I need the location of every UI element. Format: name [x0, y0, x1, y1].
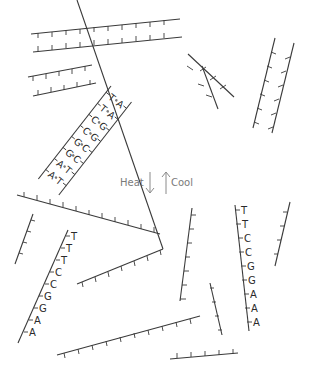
cool-label: Cool — [171, 177, 193, 188]
svg-text:C: C — [55, 267, 62, 278]
arrow-up-icon — [162, 172, 170, 194]
single-strand-small-right — [274, 202, 290, 266]
svg-text:A: A — [253, 317, 260, 328]
svg-text:T: T — [240, 205, 248, 216]
svg-text:A: A — [29, 327, 36, 338]
svg-text:G: G — [44, 291, 52, 302]
svg-text:A: A — [251, 303, 258, 314]
svg-text:T: T — [60, 255, 68, 266]
svg-text:G: G — [247, 261, 255, 272]
double-strand-fragment-small — [187, 54, 234, 109]
double-helix-labeled: T A T A C G C G G C — [38, 86, 131, 195]
svg-text:A: A — [34, 315, 41, 326]
svg-text:T: T — [70, 231, 78, 242]
svg-text:T: T — [241, 219, 249, 230]
svg-text:A: A — [250, 289, 257, 300]
single-strand-small-left — [15, 214, 35, 264]
svg-text:C: C — [244, 233, 251, 244]
svg-text:G: G — [248, 275, 256, 286]
svg-text:T: T — [65, 243, 73, 254]
single-strand-center-vertical — [180, 208, 196, 301]
svg-text:C: C — [245, 247, 252, 258]
double-strand-fragment-left — [28, 65, 96, 96]
arrow-down-icon — [146, 172, 154, 193]
single-strand-long — [17, 192, 160, 234]
single-strand-labeled-left: T T T C C G G A A — [18, 230, 78, 343]
single-strand-bottom — [57, 316, 200, 358]
heat-cool-indicator: Heat Cool — [120, 172, 193, 194]
svg-text:C: C — [50, 279, 57, 290]
single-strand-small-bottom — [170, 349, 238, 359]
dna-diagram: T A T A C G C G G C — [0, 0, 312, 378]
svg-text:G: G — [39, 303, 47, 314]
double-strand-fragment-right — [253, 38, 294, 133]
double-strand-fragment-top — [31, 19, 182, 52]
single-strand-labeled-right: T T C C G G A A A — [235, 205, 260, 331]
single-strand-small-center — [210, 283, 222, 335]
